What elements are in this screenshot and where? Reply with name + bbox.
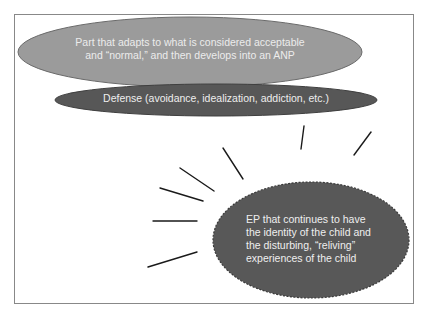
ep-part-label-line: experiences of the child (246, 252, 386, 265)
defense-label: Defense (avoidance, idealization, addict… (60, 92, 372, 105)
ep-part-label-line: the identity of the child and (246, 226, 386, 239)
ep-part-label: EP that continues to have the identity o… (246, 213, 386, 266)
ep-part-label-line: the disturbing, “reliving” (246, 239, 386, 252)
anp-part-label-line: Part that adapts to what is considered a… (60, 36, 320, 49)
defense-label-text: Defense (avoidance, idealization, addict… (60, 92, 372, 105)
anp-part-label: Part that adapts to what is considered a… (60, 36, 320, 61)
ep-part-label-line: EP that continues to have (246, 213, 386, 226)
anp-part-label-line: and “normal,” and then develops into an … (60, 49, 320, 62)
